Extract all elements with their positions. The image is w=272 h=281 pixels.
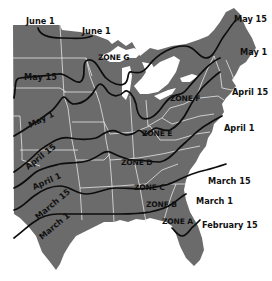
label-may15-west: May 15 xyxy=(24,72,57,82)
label-zone-g: ZONE G xyxy=(98,53,129,62)
label-march1-east: March 1 xyxy=(196,196,233,206)
label-zone-d: ZONE D xyxy=(121,158,152,167)
label-june1-east: June 1 xyxy=(81,26,111,36)
label-zone-b: ZONE B xyxy=(146,200,177,209)
label-zone-e: ZONE E xyxy=(142,129,172,138)
label-march15-east: March 15 xyxy=(208,176,251,186)
label-april1-east: April 1 xyxy=(224,123,255,133)
label-june1-west: June 1 xyxy=(25,16,55,26)
label-zone-a: ZONE A xyxy=(162,217,193,226)
label-feb15: February 15 xyxy=(202,220,258,230)
label-may1-east: May 1 xyxy=(240,47,268,57)
frost-zone-map: June 1 June 1 May 15 May 15 May 1 May 1 … xyxy=(0,0,272,281)
label-april15-east: April 15 xyxy=(232,87,268,97)
label-zone-c: ZONE C xyxy=(134,183,165,192)
label-zone-f: ZONE F xyxy=(170,94,200,103)
label-may15-east: May 15 xyxy=(234,14,267,24)
